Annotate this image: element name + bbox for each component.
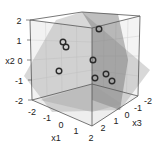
x3-tick: 0 xyxy=(124,110,129,120)
x2-axis: 2 1 0 -1 -2 x2 xyxy=(5,16,32,106)
x2-axis-label: x2 xyxy=(5,56,15,66)
3d-scatter-plot: 2 1 0 -1 -2 x2 -2 -1 0 1 2 x1 -2 -1 0 1 … xyxy=(0,0,164,150)
x2-tick: 1 xyxy=(16,36,21,46)
plot-canvas: 2 1 0 -1 -2 x2 -2 -1 0 1 2 x1 -2 -1 0 1 … xyxy=(0,0,164,150)
x2-tick: -1 xyxy=(15,76,23,86)
x1-tick: 2 xyxy=(88,133,93,143)
x1-axis-label: x1 xyxy=(51,133,61,143)
x2-tick: 0 xyxy=(17,56,22,66)
x3-axis-label: x3 xyxy=(132,118,142,128)
x1-tick: 0 xyxy=(58,120,63,130)
x1-tick: -2 xyxy=(28,107,36,117)
x3-tick: -2 xyxy=(144,96,152,106)
x1-tick: 1 xyxy=(73,126,78,136)
x2-tick: -2 xyxy=(15,96,23,106)
x2-tick: 2 xyxy=(16,16,21,26)
x1-tick: -1 xyxy=(43,113,51,123)
x3-tick: 1 xyxy=(113,116,118,126)
x3-tick: 2 xyxy=(100,123,105,133)
x3-tick: -1 xyxy=(134,103,142,113)
